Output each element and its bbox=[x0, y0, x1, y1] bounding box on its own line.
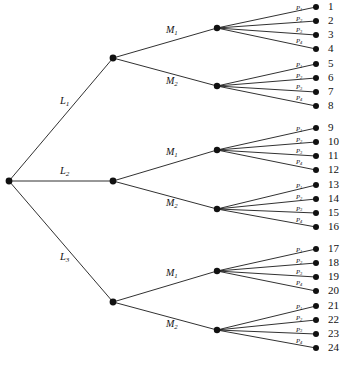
leaf-number-23: 23 bbox=[328, 327, 340, 339]
tree-node-level2-2 bbox=[214, 147, 220, 153]
tree-node-leaf-22 bbox=[313, 317, 319, 323]
edge-label-L2: L2 bbox=[59, 165, 70, 178]
edge-label-p-20: P4 bbox=[295, 279, 303, 287]
edge-label-p-7-subscript: 3 bbox=[300, 86, 303, 91]
edge-label-L1: L1 bbox=[59, 95, 69, 108]
edge-label-m-1-subscript: 2 bbox=[174, 80, 178, 87]
leaf-number-17: 17 bbox=[328, 242, 340, 254]
leaf-number-24: 24 bbox=[328, 341, 340, 353]
tree-node-leaf-8 bbox=[313, 103, 319, 109]
tree-node-level2-0 bbox=[214, 25, 220, 31]
leaf-number-15: 15 bbox=[328, 206, 340, 218]
edge-level1-to-level2-2 bbox=[113, 150, 217, 181]
edge-label-p-8-subscript: 4 bbox=[300, 97, 303, 102]
tree-node-leaf-10 bbox=[313, 139, 319, 145]
leaf-number-8: 8 bbox=[328, 99, 334, 111]
tree-node-leaf-7 bbox=[313, 89, 319, 95]
edge-label-p-3: P3 bbox=[295, 26, 303, 34]
edge-label-p-16-subscript: 4 bbox=[300, 219, 303, 224]
edge-label-L3-subscript: 3 bbox=[65, 256, 70, 264]
tree-node-root bbox=[6, 178, 13, 185]
level3-label-group: P1P2P3P4P1P2P3P4P1P2P3P4P1P2P3P4P1P2P3P4… bbox=[295, 4, 303, 345]
edge-label-p-7: P3 bbox=[295, 83, 303, 91]
edge-label-p-12-subscript: 4 bbox=[300, 161, 303, 166]
tree-node-leaf-13 bbox=[313, 182, 319, 188]
leaf-number-13: 13 bbox=[328, 178, 340, 190]
tree-node-leaf-1 bbox=[313, 4, 319, 10]
level2-edge-group bbox=[113, 28, 217, 330]
leaf-number-11: 11 bbox=[328, 149, 339, 161]
edge-label-p-6: P2 bbox=[295, 72, 303, 80]
node-group bbox=[6, 4, 319, 351]
edge-label-p-9-subscript: 1 bbox=[300, 128, 302, 133]
tree-node-L3 bbox=[110, 299, 117, 306]
leaf-number-12: 12 bbox=[328, 163, 339, 175]
tree-node-leaf-11 bbox=[313, 153, 319, 159]
edge-root-to-L1 bbox=[9, 58, 113, 181]
tree-node-leaf-3 bbox=[313, 32, 319, 38]
edge-label-m-0: M1 bbox=[165, 24, 178, 36]
level2-label-group: M1M2M1M2M1M2 bbox=[165, 24, 178, 330]
tree-node-leaf-12 bbox=[313, 167, 319, 173]
edge-label-p-21-subscript: 1 bbox=[300, 306, 302, 311]
level3-edge-group bbox=[217, 7, 316, 348]
tree-node-leaf-21 bbox=[313, 303, 319, 309]
edge-label-p-10: P2 bbox=[295, 136, 303, 144]
edge-level1-to-level2-5 bbox=[113, 302, 217, 330]
edge-label-p-17: P1 bbox=[295, 246, 302, 254]
edge-level1-to-level2-3 bbox=[113, 181, 217, 209]
edge-label-p-19: P3 bbox=[295, 268, 303, 276]
leaf-number-6: 6 bbox=[328, 71, 334, 83]
leaf-number-1: 1 bbox=[328, 0, 334, 12]
tree-node-leaf-15 bbox=[313, 210, 319, 216]
tree-node-L2 bbox=[110, 178, 117, 185]
edge-label-p-15-subscript: 3 bbox=[300, 208, 303, 213]
edge-label-p-1: P1 bbox=[295, 4, 302, 12]
edge-root-to-L3 bbox=[9, 181, 113, 302]
edge-label-p-5: P1 bbox=[295, 61, 302, 69]
edge-label-p-22: P2 bbox=[295, 314, 303, 322]
leaf-number-16: 16 bbox=[328, 220, 340, 232]
edge-level1-to-level2-4 bbox=[113, 271, 217, 302]
edge-label-p-19-subscript: 3 bbox=[300, 271, 303, 276]
tree-node-level2-4 bbox=[214, 268, 220, 274]
edge-label-p-5-subscript: 1 bbox=[300, 64, 302, 69]
edge-label-p-13: P1 bbox=[295, 182, 302, 190]
edge-label-p-23: P3 bbox=[295, 326, 303, 334]
leaf-number-4: 4 bbox=[328, 42, 334, 54]
edge-label-m-2: M1 bbox=[165, 146, 178, 158]
edge-label-p-20-subscript: 4 bbox=[300, 282, 303, 287]
level1-label-group: L1L2L3 bbox=[59, 95, 70, 264]
decision-tree-svg: L1L2L3 M1M2M1M2M1M2 P1P2P3P4P1P2P3P4P1P2… bbox=[0, 0, 340, 371]
leaf-number-group: 123456789101112131415161718192021222324 bbox=[328, 0, 340, 353]
edge-label-m-5-subscript: 2 bbox=[174, 323, 178, 330]
tree-node-leaf-2 bbox=[313, 18, 319, 24]
edge-label-p-11-subscript: 3 bbox=[300, 150, 303, 155]
edge-label-p-4: P4 bbox=[295, 37, 303, 45]
tree-node-leaf-9 bbox=[313, 125, 319, 131]
edge-label-m-3-subscript: 2 bbox=[174, 202, 178, 209]
edge-label-p-3-subscript: 3 bbox=[300, 29, 303, 34]
edge-level1-to-level2-1 bbox=[113, 58, 217, 86]
edge-label-p-13-subscript: 1 bbox=[300, 185, 302, 190]
edge-label-m-1: M2 bbox=[165, 75, 178, 87]
edge-label-p-1-subscript: 1 bbox=[300, 7, 302, 12]
edge-label-L3: L3 bbox=[59, 251, 70, 264]
leaf-number-3: 3 bbox=[328, 28, 334, 40]
tree-node-leaf-16 bbox=[313, 224, 319, 230]
edge-label-p-15: P3 bbox=[295, 205, 303, 213]
edge-label-p-11: P3 bbox=[295, 147, 303, 155]
tree-node-leaf-5 bbox=[313, 61, 319, 67]
leaf-number-22: 22 bbox=[328, 313, 339, 325]
tree-node-leaf-17 bbox=[313, 246, 319, 252]
edge-label-m-3: M2 bbox=[165, 197, 178, 209]
edge-label-p-24: P4 bbox=[295, 337, 303, 345]
leaf-number-20: 20 bbox=[328, 284, 340, 296]
leaf-number-5: 5 bbox=[328, 57, 334, 69]
edge-label-p-12: P4 bbox=[295, 158, 303, 166]
tree-node-leaf-14 bbox=[313, 196, 319, 202]
edge-level1-to-level2-0 bbox=[113, 28, 217, 58]
edge-label-m-5: M2 bbox=[165, 318, 178, 330]
decision-tree-figure: L1L2L3 M1M2M1M2M1M2 P1P2P3P4P1P2P3P4P1P2… bbox=[0, 0, 340, 371]
tree-node-leaf-20 bbox=[313, 288, 319, 294]
